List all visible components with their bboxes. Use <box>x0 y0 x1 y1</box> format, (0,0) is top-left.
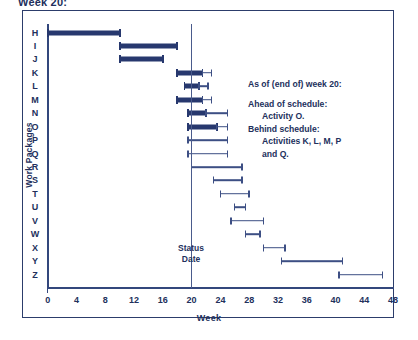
bar-cap-L-end <box>207 83 208 90</box>
bar-cap-I-start <box>119 42 121 50</box>
bar-cap-L-start <box>184 82 186 90</box>
bar-cap-Z-start <box>338 271 339 278</box>
note-behind-value: Activities K, L, M, P <box>248 135 400 148</box>
x-label-4: 4 <box>74 295 79 305</box>
bar-V-planned <box>231 220 263 222</box>
bar-Z-planned <box>339 274 382 276</box>
bar-cap-Y-start <box>281 258 282 265</box>
annotation-note: As of (end of) week 20: Ahead of schedul… <box>248 78 400 160</box>
note-ahead-label: Ahead of schedule: <box>248 98 400 111</box>
x-label-8: 8 <box>103 295 108 305</box>
bar-M-actual <box>177 97 202 102</box>
x-label-48: 48 <box>388 295 398 305</box>
note-ahead-value: Activity O. <box>248 110 400 123</box>
x-label-24: 24 <box>215 295 225 305</box>
x-axis-title: Week <box>0 313 418 323</box>
bar-cap-W-end <box>259 231 260 238</box>
bar-cap-S-end <box>241 177 242 184</box>
bar-O-actual <box>188 124 217 129</box>
bar-cap-N-start <box>205 110 206 117</box>
bar-cap-Y-end <box>342 258 343 265</box>
bar-cap-K-start <box>202 69 203 76</box>
bar-cap-U-start <box>234 204 235 211</box>
bar-cap-N-end <box>227 110 228 117</box>
y-label-X: X <box>28 243 42 253</box>
bar-cap-V-end <box>263 217 264 224</box>
bar-cap-H-start <box>47 29 49 37</box>
bar-T-planned <box>220 193 249 195</box>
x-label-32: 32 <box>273 295 283 305</box>
y-label-K: K <box>28 68 42 78</box>
bar-cap-P-end <box>227 137 228 144</box>
x-axis-line <box>47 287 394 289</box>
y-label-W: W <box>28 229 42 239</box>
bar-K-actual <box>177 70 202 75</box>
bar-cap-L-start <box>198 83 199 90</box>
bar-cap-V-start <box>230 217 231 224</box>
y-label-I: I <box>28 41 42 51</box>
bar-cap-I-end <box>176 42 178 50</box>
note-heading: As of (end of) week 20: <box>248 78 400 91</box>
bar-J-actual <box>120 57 163 62</box>
bar-cap-M-start <box>176 96 178 104</box>
bar-W-planned <box>246 233 260 235</box>
bar-I-actual <box>120 43 178 48</box>
bar-cap-K-start <box>176 69 178 77</box>
y-label-V: V <box>28 216 42 226</box>
status-date-line1: Status <box>160 243 222 254</box>
bar-cap-T-start <box>220 190 221 197</box>
bar-cap-T-end <box>248 190 249 197</box>
y-label-U: U <box>28 202 42 212</box>
x-label-40: 40 <box>330 295 340 305</box>
gantt-chart-page: Week 20: 04812162024283236404448 HIJKLMN… <box>0 0 418 340</box>
x-label-36: 36 <box>302 295 312 305</box>
bar-R-planned <box>192 166 242 168</box>
bar-Q-planned <box>188 153 228 155</box>
y-label-Y: Y <box>28 256 42 266</box>
bar-cap-J-start <box>119 55 121 63</box>
bar-cap-X-end <box>284 244 285 251</box>
bar-cap-J-end <box>162 55 164 63</box>
bar-cap-W-start <box>245 231 246 238</box>
bar-N-planned <box>206 112 228 114</box>
bar-cap-O-start <box>216 123 217 130</box>
bar-X-planned <box>264 247 286 249</box>
x-label-28: 28 <box>244 295 254 305</box>
bar-S-planned <box>213 180 242 182</box>
bar-cap-O-start <box>187 123 189 131</box>
note-behind-value2: and Q. <box>248 148 400 161</box>
y-axis-title: Work Packages <box>24 110 34 200</box>
bar-P-planned <box>188 139 228 141</box>
bar-cap-N-start <box>187 109 189 117</box>
bar-cap-O-end <box>227 123 228 130</box>
status-date-label: Status Date <box>160 243 222 265</box>
bar-cap-Q-end <box>227 150 228 157</box>
y-label-J: J <box>28 54 42 64</box>
plot-area: 04812162024283236404448 HIJKLMNOPQRSTUVW… <box>0 0 418 340</box>
bar-cap-H-end <box>119 29 121 37</box>
bar-cap-X-start <box>263 244 264 251</box>
bar-cap-P-start <box>187 137 188 144</box>
x-label-44: 44 <box>359 295 369 305</box>
y-label-H: H <box>28 28 42 38</box>
y-axis-line <box>47 24 49 288</box>
x-label-20: 20 <box>187 295 197 305</box>
y-label-L: L <box>28 81 42 91</box>
bar-H-actual <box>48 30 120 35</box>
bar-cap-M-end <box>211 96 212 103</box>
note-behind-label: Behind schedule: <box>248 123 400 136</box>
bar-cap-K-end <box>211 69 212 76</box>
bar-cap-S-start <box>213 177 214 184</box>
x-label-16: 16 <box>158 295 168 305</box>
bar-Y-planned <box>282 260 343 262</box>
bar-cap-M-start <box>202 96 203 103</box>
x-tick-0 <box>47 288 48 293</box>
x-label-12: 12 <box>129 295 139 305</box>
y-label-Z: Z <box>28 270 42 280</box>
y-label-M: M <box>28 95 42 105</box>
bar-cap-Z-end <box>382 271 383 278</box>
x-label-0: 0 <box>45 295 50 305</box>
bar-cap-Q-start <box>187 150 188 157</box>
bar-cap-R-end <box>241 164 242 171</box>
status-date-line2: Date <box>160 254 222 265</box>
